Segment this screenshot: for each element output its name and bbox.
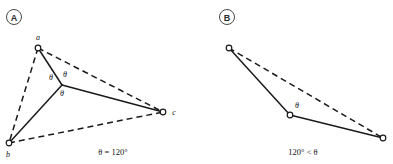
panel-a-node-b xyxy=(6,140,12,146)
panel-a-theta-label-2: θ xyxy=(63,70,67,79)
panel-a-theta-label-3: θ xyxy=(60,89,64,98)
panel-a-node-a xyxy=(35,45,41,51)
panel-a-dashed-edge-ac xyxy=(38,48,163,112)
panel-b-theta-label: θ xyxy=(295,101,299,110)
panel-a-node-a-label: a xyxy=(36,33,40,42)
steiner-tree-figure: A θ θ θ a b c θ = 120° B xyxy=(0,0,393,164)
panel-a-badge: A xyxy=(7,10,22,25)
panel-a-dashed-edge-ab xyxy=(9,48,38,143)
panel-a-node-c xyxy=(160,109,166,115)
panel-a-badge-label: A xyxy=(11,13,18,23)
panel-b-solid-edge-mq xyxy=(290,115,383,138)
panel-b-badge: B xyxy=(220,10,235,25)
panel-b: B θ 120° < θ xyxy=(220,10,386,158)
panel-b-caption: 120° < θ xyxy=(288,147,317,157)
panel-b-node-q xyxy=(380,135,386,141)
panel-a-caption: θ = 120° xyxy=(98,147,127,157)
panel-a-theta-label-1: θ xyxy=(49,73,53,82)
panel-b-node-p xyxy=(226,45,232,51)
panel-b-node-m xyxy=(287,112,293,118)
panel-b-badge-label: B xyxy=(224,13,231,23)
panel-b-dashed-edge-pq xyxy=(229,48,383,138)
panel-a: A θ θ θ a b c θ = 120° xyxy=(6,10,176,160)
panel-b-solid-edge-pm xyxy=(229,48,290,115)
panel-a-solid-edge-sc xyxy=(62,85,163,112)
panel-a-node-c-label: c xyxy=(172,108,176,117)
panel-a-node-b-label: b xyxy=(6,150,10,159)
